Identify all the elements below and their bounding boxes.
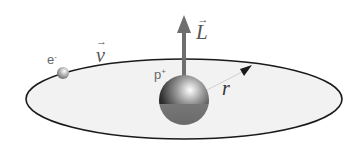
radius-label: r	[222, 78, 230, 98]
bohr-atom-diagram: e- →v p+ →L r	[0, 0, 360, 148]
velocity-label: →v	[96, 45, 105, 65]
angular-momentum-label: →L	[196, 22, 208, 43]
vector-arrow-icon: →	[96, 36, 107, 47]
electron-label: e-	[47, 53, 57, 66]
vector-arrow-icon: →	[197, 14, 208, 25]
proton-sphere	[159, 75, 209, 125]
diagram-canvas	[0, 0, 360, 148]
angular-momentum-shaft	[182, 28, 186, 78]
electron-sphere	[57, 67, 69, 79]
angular-momentum-arrowhead-icon	[177, 15, 191, 33]
proton-label: p+	[154, 68, 166, 81]
